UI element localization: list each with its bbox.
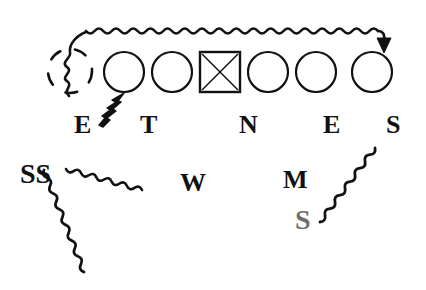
- diagram-label-w-W: W: [180, 170, 206, 196]
- diagram-label-e-E1: E: [74, 112, 91, 138]
- connector-zigzag[interactable]: [99, 93, 124, 127]
- diagram-label-t-T: T: [140, 112, 157, 138]
- diagram-label-s-S1: S: [386, 112, 400, 138]
- diagram-svg: [0, 0, 426, 290]
- node-circle[interactable]: [152, 52, 192, 92]
- diagram-label-e-E2: E: [323, 112, 340, 138]
- node-circle[interactable]: [104, 52, 144, 92]
- connector-top-tail: [65, 32, 86, 96]
- connector-ss-right[interactable]: [66, 169, 142, 190]
- connector-s-up[interactable]: [320, 148, 375, 222]
- connector-top-arrowhead-icon: [377, 38, 391, 53]
- diagram-label-s-S2: S: [295, 206, 311, 234]
- connector-top-wave: [86, 29, 378, 34]
- diagram-label-m-M: M: [283, 167, 308, 193]
- connector-top[interactable]: [65, 29, 391, 96]
- node-circle[interactable]: [296, 52, 336, 92]
- node-circle[interactable]: [248, 52, 288, 92]
- diagram-label-ss-SS: SS: [20, 160, 51, 188]
- connector-zigzag-arrow-icon: [99, 93, 124, 127]
- node-circle[interactable]: [352, 52, 392, 92]
- diagram-canvas: ETNESSSWMS: [0, 0, 426, 290]
- diagram-label-n-N: N: [239, 112, 258, 138]
